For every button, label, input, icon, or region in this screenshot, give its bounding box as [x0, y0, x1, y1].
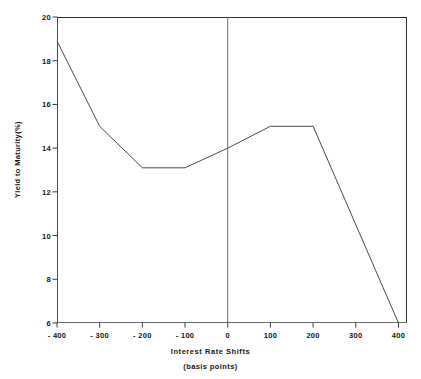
x-tick-label: - 100 — [176, 331, 195, 340]
x-tick-label: - 300 — [90, 331, 109, 340]
y-tick-label: 14 — [23, 144, 51, 153]
y-axis-title: Yield to Maturity(%) — [13, 100, 22, 220]
x-axis-title: Interest Rate Shifts — [0, 347, 421, 356]
y-tick-label: 8 — [23, 275, 51, 284]
y-tick-label: 16 — [23, 100, 51, 109]
chart-data-layer — [57, 17, 407, 323]
y-tick-label: 18 — [23, 56, 51, 65]
y-tick-label: 6 — [23, 319, 51, 328]
y-tick-label: 10 — [23, 231, 51, 240]
x-tick-marks — [57, 323, 398, 328]
x-tick-label: 400 — [392, 331, 405, 340]
x-tick-label: 200 — [306, 331, 319, 340]
chart-figure: 68101214161820 - 400- 300- 200- 10001002… — [0, 0, 421, 379]
x-tick-label: - 400 — [48, 331, 67, 340]
y-tick-marks — [53, 17, 58, 323]
x-axis-subtitle: (basis points) — [0, 362, 421, 371]
x-tick-label: 0 — [225, 331, 229, 340]
x-tick-label: 100 — [264, 331, 277, 340]
y-tick-label: 20 — [23, 13, 51, 22]
x-tick-label: 300 — [349, 331, 362, 340]
y-tick-label: 12 — [23, 187, 51, 196]
x-tick-label: - 200 — [133, 331, 152, 340]
